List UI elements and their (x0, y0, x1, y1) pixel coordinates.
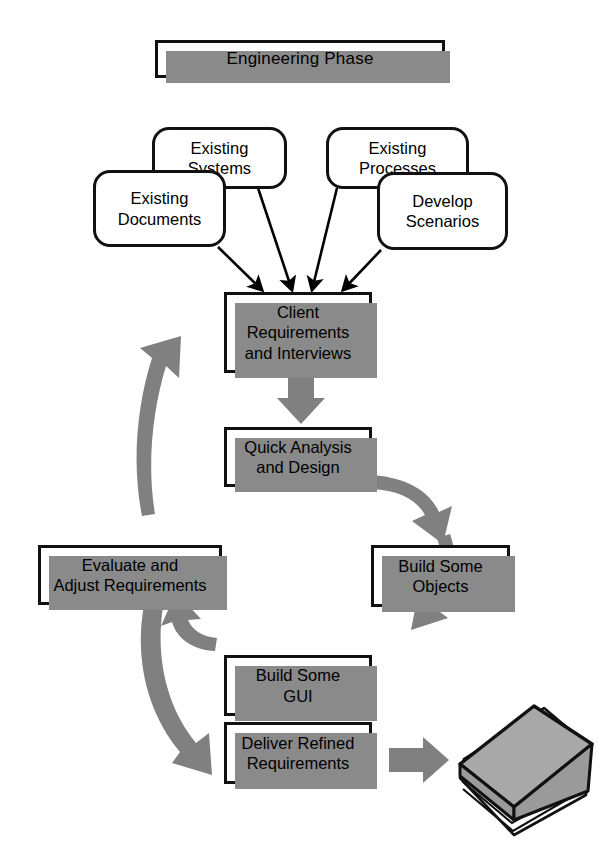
node-label: Engineering Phase (222, 49, 377, 70)
node-quick-analysis[interactable]: Quick Analysis and Design (224, 427, 372, 487)
node-label: Deliver Refined Requirements (238, 733, 359, 773)
book-icon (452, 692, 602, 842)
edge-existing-documents-to-client (218, 247, 262, 290)
diagram-canvas: Engineering Phase Existing Systems Exist… (0, 0, 614, 860)
node-client-requirements[interactable]: Client Requirements and Interviews (224, 292, 372, 373)
edge-evaluate-to-client (137, 336, 181, 516)
node-engineering-phase[interactable]: Engineering Phase (155, 40, 445, 78)
edge-develop-scenarios-to-client (343, 250, 381, 290)
edge-existing-processes-to-client (312, 188, 337, 290)
node-existing-documents[interactable]: Existing Documents (93, 170, 226, 247)
node-label: Build Some Objects (394, 556, 486, 596)
node-label: Client Requirements and Interviews (241, 302, 355, 362)
node-label: Quick Analysis and Design (240, 437, 355, 477)
node-label: Existing Documents (114, 188, 205, 228)
node-develop-scenarios[interactable]: Develop Scenarios (377, 172, 508, 250)
node-label: Evaluate and Adjust Requirements (49, 555, 210, 595)
edge-deliver-to-book (389, 737, 449, 783)
edge-quick-analysis-to-build-objects (371, 475, 452, 544)
edge-client-to-quick-analysis (277, 372, 325, 424)
node-build-gui[interactable]: Build Some GUI (224, 655, 372, 716)
node-evaluate-adjust[interactable]: Evaluate and Adjust Requirements (38, 545, 222, 605)
node-label: Develop Scenarios (402, 191, 483, 231)
node-deliver-refined[interactable]: Deliver Refined Requirements (224, 722, 372, 784)
node-label: Build Some GUI (252, 665, 344, 705)
edge-existing-systems-to-client (258, 188, 292, 290)
node-build-objects[interactable]: Build Some Objects (371, 545, 510, 607)
